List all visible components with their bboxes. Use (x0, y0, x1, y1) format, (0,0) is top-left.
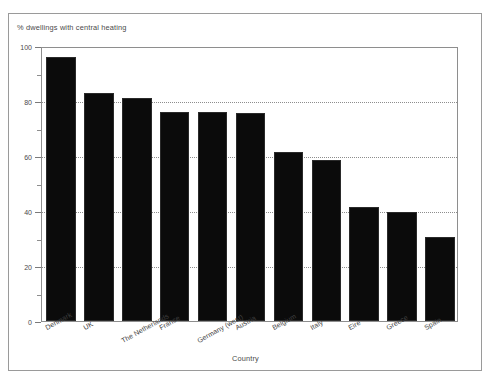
x-axis-title: Country (0, 354, 491, 363)
x-axis-category-labels: DenmarkUKThe NetherlandsFranceGermany (w… (0, 322, 491, 384)
bar (274, 152, 304, 321)
bar (84, 93, 114, 321)
plot-area (41, 47, 458, 322)
bar (198, 112, 228, 321)
bar (425, 237, 455, 321)
bar (312, 160, 342, 321)
y-axis-tick-label: 40 (24, 209, 32, 216)
y-axis-tick-label: 80 (24, 99, 32, 106)
y-axis-tick-label: 100 (20, 44, 32, 51)
bar (387, 212, 417, 321)
x-axis-category-label: UK (82, 320, 94, 331)
bar (349, 207, 379, 321)
y-axis-tick-label: 60 (24, 154, 32, 161)
bar (160, 112, 190, 321)
y-axis-tick-label: 20 (24, 264, 32, 271)
chart-figure: % dwellings with central heating 0204060… (0, 0, 491, 384)
bar (122, 98, 152, 321)
bar (236, 113, 266, 321)
bar (46, 57, 76, 321)
